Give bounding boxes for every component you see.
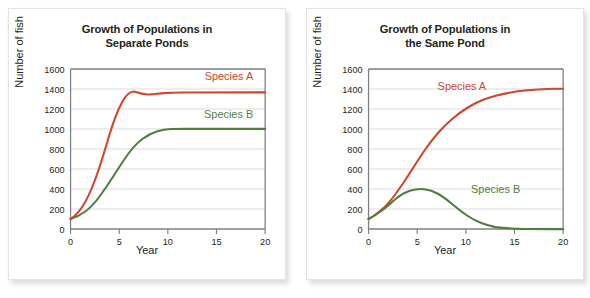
y-axis-label: Number of fish bbox=[13, 0, 25, 112]
plot-area-wrapper: Number of fish bbox=[9, 56, 285, 258]
panel-title: Growth of Populations in the Same Pond bbox=[329, 23, 561, 50]
panel-title-line2: the Same Pond bbox=[405, 37, 485, 49]
svg-text:800: 800 bbox=[347, 145, 362, 155]
gridlines bbox=[71, 69, 266, 209]
svg-text:1400: 1400 bbox=[342, 85, 362, 95]
panel-title-line1: Growth of Populations in bbox=[82, 23, 213, 35]
svg-text:1600: 1600 bbox=[342, 65, 362, 75]
panel-title: Growth of Populations in Separate Ponds bbox=[31, 23, 263, 50]
series-line-species-a bbox=[369, 89, 564, 219]
svg-text:200: 200 bbox=[347, 205, 362, 215]
x-axis-label: Year bbox=[307, 244, 583, 256]
svg-text:600: 600 bbox=[49, 165, 64, 175]
plot-area-wrapper: Number of fish bbox=[307, 56, 583, 258]
svg-text:600: 600 bbox=[347, 165, 362, 175]
svg-text:1200: 1200 bbox=[342, 105, 362, 115]
svg-text:0: 0 bbox=[358, 225, 363, 235]
x-axis-label: Year bbox=[9, 244, 285, 256]
svg-text:1200: 1200 bbox=[44, 105, 64, 115]
svg-text:1400: 1400 bbox=[44, 85, 64, 95]
plot-svg: 1600 1400 1200 1000 800 600 400 200 0 bbox=[307, 56, 583, 258]
figure-container: Growth of Populations in Separate Ponds … bbox=[0, 0, 590, 298]
plot-svg: 1600 1400 1200 1000 800 600 400 200 0 bbox=[9, 56, 285, 258]
svg-text:1600: 1600 bbox=[44, 65, 64, 75]
y-tick-labels: 1600 1400 1200 1000 800 600 400 200 0 bbox=[44, 65, 64, 235]
y-axis-label: Number of fish bbox=[311, 0, 323, 112]
series-line-species-b bbox=[71, 129, 266, 219]
x-tick-marks bbox=[71, 229, 266, 234]
svg-text:0: 0 bbox=[60, 225, 65, 235]
series-label-species-a: Species A bbox=[205, 70, 254, 82]
series-label-species-b: Species B bbox=[204, 108, 253, 120]
svg-text:400: 400 bbox=[347, 185, 362, 195]
svg-text:1000: 1000 bbox=[342, 125, 362, 135]
chart-panel-separate-ponds: Growth of Populations in Separate Ponds … bbox=[8, 8, 286, 280]
panel-title-line1: Growth of Populations in bbox=[380, 23, 511, 35]
svg-text:200: 200 bbox=[49, 205, 64, 215]
svg-text:400: 400 bbox=[49, 185, 64, 195]
series-label-species-b: Species B bbox=[471, 183, 520, 195]
y-tick-labels: 1600 1400 1200 1000 800 600 400 200 0 bbox=[342, 65, 362, 235]
svg-text:1000: 1000 bbox=[44, 125, 64, 135]
svg-text:800: 800 bbox=[49, 145, 64, 155]
panel-title-line2: Separate Ponds bbox=[105, 37, 188, 49]
chart-panel-same-pond: Growth of Populations in the Same Pond N… bbox=[306, 8, 584, 280]
series-label-species-a: Species A bbox=[438, 80, 487, 92]
